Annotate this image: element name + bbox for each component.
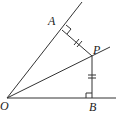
right-angle-mark-a [66,25,71,34]
label-o: O [0,99,9,113]
geometry-diagram: A P O B [0,0,120,120]
ray-oa [7,2,82,98]
right-angle-mark-b [86,93,92,98]
segment-pa [62,30,92,56]
label-p: P [92,43,101,57]
label-b: B [89,100,97,114]
label-a: A [47,14,56,28]
